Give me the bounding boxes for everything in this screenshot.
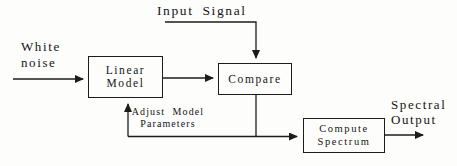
white-noise-label-line2: noise (21, 55, 61, 71)
compute-spectrum-box: Compute Spectrum (303, 118, 385, 153)
spectral-output-label: Spectral Output (391, 97, 446, 127)
white-noise-label-line1: White (21, 39, 61, 55)
linear-model-box: Linear Model (88, 56, 163, 98)
block-diagram: White noise Input Signal Linear Model Co… (0, 0, 457, 166)
linear-model-label-line2: Model (106, 77, 144, 90)
white-noise-label: White noise (21, 39, 61, 70)
spectral-output-label-line2: Output (391, 112, 446, 127)
compare-box: Compare (218, 63, 292, 95)
arrow-input-signal-to-compare (165, 22, 256, 58)
linear-model-label-line1: Linear (106, 64, 146, 77)
compute-spectrum-label-line2: Spectrum (317, 136, 370, 149)
spectral-output-label-line1: Spectral (391, 97, 446, 112)
adjust-label-line1: Adjust Model (128, 106, 208, 118)
compute-spectrum-label-line1: Compute (319, 123, 369, 136)
input-signal-label: Input Signal (157, 3, 247, 19)
compare-label: Compare (228, 73, 281, 86)
adjust-label-line2: Parameters (128, 118, 208, 130)
adjust-model-parameters-label: Adjust Model Parameters (128, 106, 208, 129)
